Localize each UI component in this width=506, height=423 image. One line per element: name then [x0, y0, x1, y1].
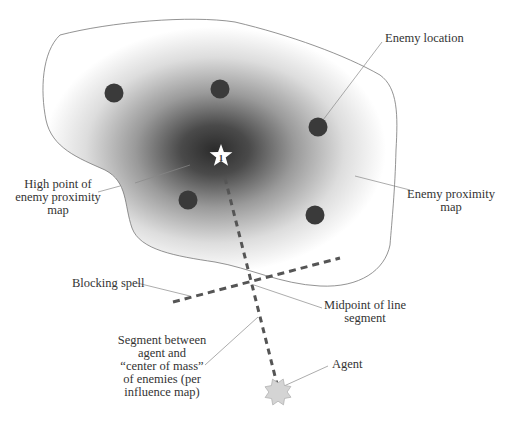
leader-segment [205, 317, 258, 365]
label-line: map [15, 204, 101, 217]
label-line: map [406, 201, 496, 214]
enemy-dot [309, 118, 328, 137]
enemy-dot [105, 84, 124, 103]
label-line: Blocking spell [72, 277, 145, 290]
leader-high-point [98, 186, 120, 192]
enemy-dot [179, 191, 198, 210]
label-agent: Agent [332, 358, 363, 371]
enemy-dot [306, 206, 325, 225]
enemy-dot [211, 80, 230, 99]
leader-midpoint [254, 285, 322, 308]
leader-agent [284, 366, 328, 386]
label-midpoint: Midpoint of line segment [322, 299, 408, 325]
high-point-star-label: 1 [219, 153, 224, 163]
label-enemy-location: Enemy location [385, 32, 464, 45]
label-line: influence map) [117, 386, 207, 399]
agent-star-icon [260, 374, 296, 410]
label-blocking-spell: Blocking spell [72, 277, 145, 290]
label-line: segment [322, 312, 408, 325]
label-line: Agent [332, 358, 363, 371]
label-high-point: High point of enemy proximity map [15, 178, 101, 217]
label-line: Enemy location [385, 32, 464, 45]
label-segment: Segment between agent and “center of mas… [117, 334, 207, 399]
label-enemy-proximity-map: Enemy proximity map [406, 188, 496, 214]
